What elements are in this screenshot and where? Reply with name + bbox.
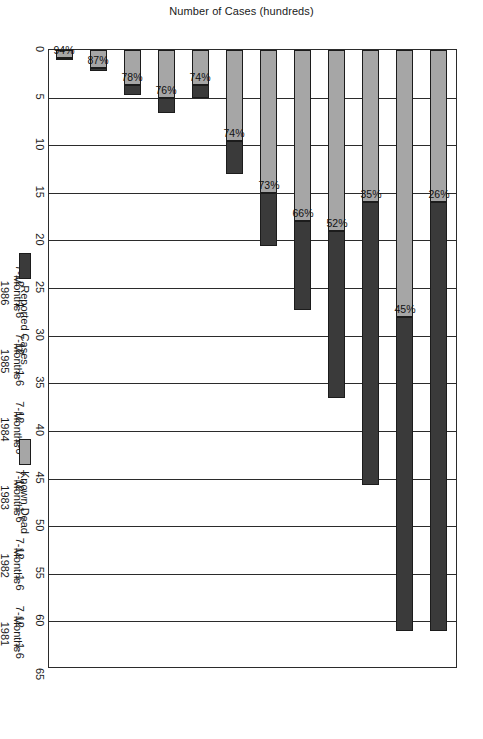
bar-segment-reported-cases	[362, 202, 379, 485]
bar-segment-reported-cases	[124, 85, 141, 95]
chart-legend: Reported CasesKnown Dead	[1, 49, 31, 668]
bar-group: 35%	[362, 50, 379, 669]
bar-segment-known-dead	[158, 50, 175, 98]
bar-group: 74%	[226, 50, 243, 669]
bar-segment-known-dead	[56, 50, 73, 58]
bar-group: 66%	[294, 50, 311, 669]
bar-group: 76%	[158, 50, 175, 669]
bar-segment-reported-cases	[90, 68, 107, 71]
legend-swatch-cases	[19, 253, 31, 279]
chart-canvas: Number of Cases (hundreds) 0510152025303…	[0, 0, 483, 739]
bar-segment-reported-cases	[328, 231, 345, 398]
legend-label: Reported Cases	[19, 285, 31, 365]
bar-segment-reported-cases	[226, 141, 243, 173]
bar-segment-known-dead	[362, 50, 379, 202]
plot-panel: 94%87%78%76%74%74%73%66%52%35%45%26%	[48, 49, 457, 668]
bar-group: 94%	[56, 50, 73, 669]
bar-group: 26%	[430, 50, 447, 669]
bar-segment-reported-cases	[430, 202, 447, 631]
bar-segment-known-dead	[328, 50, 345, 231]
legend-swatch-dead	[19, 439, 31, 465]
bar-segment-reported-cases	[294, 221, 311, 310]
bar-segment-reported-cases	[158, 98, 175, 113]
legend-label: Known Dead	[19, 471, 31, 534]
bar-group: 45%	[396, 50, 413, 669]
bar-group: 87%	[90, 50, 107, 669]
bar-segment-known-dead	[294, 50, 311, 221]
bar-segment-known-dead	[396, 50, 413, 317]
bar-segment-known-dead	[192, 50, 209, 85]
bar-segment-known-dead	[226, 50, 243, 141]
bar-group: 73%	[260, 50, 277, 669]
legend-item[interactable]: Known Dead	[19, 439, 31, 534]
legend-item[interactable]: Reported Cases	[19, 253, 31, 365]
bar-segment-known-dead	[260, 50, 277, 193]
plot-area: Number of Cases (hundreds) 0510152025303…	[0, 0, 483, 739]
value-tick-label: 60	[34, 597, 46, 645]
y-axis-title: Number of Cases (hundreds)	[0, 2, 483, 20]
bar-series-layer: 94%87%78%76%74%74%73%66%52%35%45%26%	[49, 50, 456, 667]
bar-group: 78%	[124, 50, 141, 669]
bar-segment-known-dead	[90, 50, 107, 68]
bar-segment-known-dead	[430, 50, 447, 202]
bar-group: 74%	[192, 50, 209, 669]
y-axis-tick-labels: 05101520253035404550556065	[30, 49, 46, 668]
bar-segment-known-dead	[124, 50, 141, 85]
bar-segment-reported-cases	[56, 58, 73, 60]
bar-segment-reported-cases	[396, 317, 413, 631]
bar-group: 52%	[328, 50, 345, 669]
bar-segment-reported-cases	[260, 193, 277, 246]
bar-segment-reported-cases	[192, 85, 209, 97]
